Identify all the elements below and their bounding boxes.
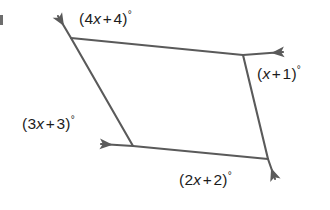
parallelogram-diagram: [0, 0, 330, 210]
angle-label-top-left-variable: x: [93, 10, 101, 27]
degree-symbol-icon: °: [297, 64, 301, 75]
angle-label-bottom-operator: +: [201, 171, 213, 188]
angle-label-left-constant: 3: [56, 115, 65, 132]
angle-label-right: (x+1)°: [257, 65, 301, 82]
angle-label-bottom-variable: x: [193, 171, 201, 188]
bottom-edge: [133, 146, 268, 159]
degree-symbol-icon: °: [71, 114, 75, 125]
degree-symbol-icon: °: [128, 9, 132, 20]
ray-right: [243, 52, 283, 55]
angle-label-top-left-constant: 4: [113, 10, 122, 27]
angle-label-right-operator: +: [270, 65, 282, 82]
geometry-figure: (4x+4)° (x+1)° (3x+3)° (2x+2)°: [0, 0, 330, 210]
angle-label-left-variable: x: [36, 115, 44, 132]
angle-label-left: (3x+3)°: [22, 115, 75, 132]
angle-label-top-left: (4x+4)°: [79, 10, 132, 27]
ray-down: [268, 159, 275, 179]
ray-up-left: [58, 16, 71, 38]
angle-label-bottom-coefficient: 2: [184, 171, 193, 188]
angle-label-bottom-constant: 2: [213, 171, 222, 188]
ray-left: [101, 144, 133, 146]
angle-label-top-left-coefficient: 4: [84, 10, 93, 27]
angle-label-left-coefficient: 3: [27, 115, 36, 132]
angle-label-top-left-operator: +: [101, 10, 113, 27]
left-edge-artifact: [0, 15, 3, 25]
degree-symbol-icon: °: [228, 170, 232, 181]
angle-label-bottom: (2x+2)°: [179, 171, 232, 188]
top-edge: [71, 38, 243, 55]
left-edge: [71, 38, 133, 146]
angle-label-left-operator: +: [44, 115, 56, 132]
